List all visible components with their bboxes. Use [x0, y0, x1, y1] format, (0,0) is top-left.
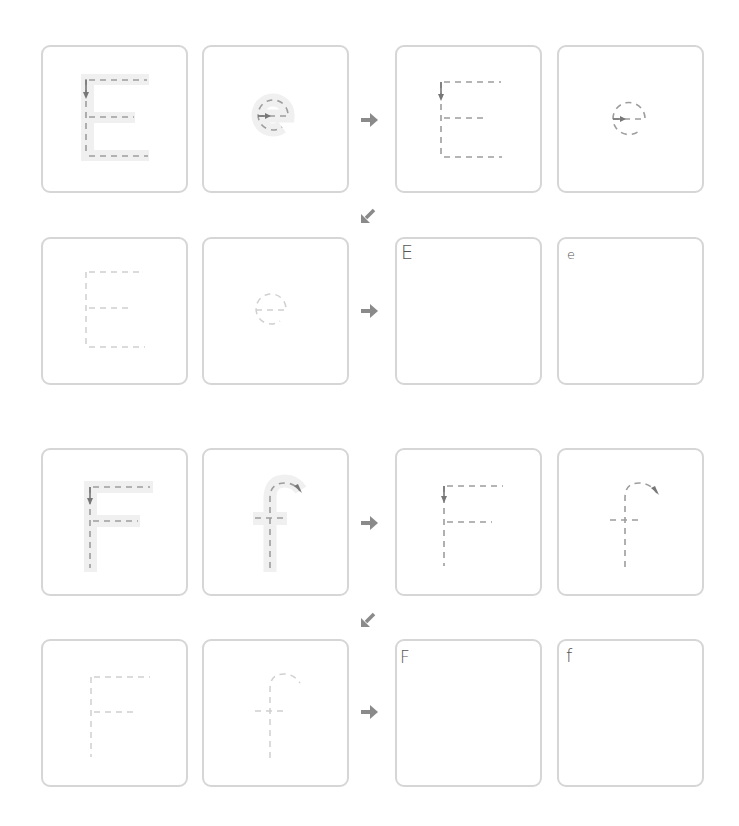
letter-f-faded-icon [202, 639, 349, 787]
card-F-faded-trace [41, 639, 188, 787]
card-F-write-box[interactable]: F [395, 639, 542, 787]
card-E-dashed-trace [395, 45, 542, 193]
card-f-write-box[interactable]: f [557, 639, 704, 787]
letter-e-faded-icon [202, 237, 349, 385]
letter-F-guide-icon [41, 448, 188, 596]
letter-label-f: f [566, 647, 572, 665]
card-E-write-box[interactable]: E [395, 237, 542, 385]
letter-label-e: e [567, 248, 575, 261]
arrow-down-left-icon [360, 208, 376, 224]
card-E-faded-trace [41, 237, 188, 385]
letter-F-dashed-icon [395, 448, 542, 596]
letter-f-dashed-icon [557, 448, 704, 596]
letter-label-E: E [401, 243, 413, 262]
card-e-dashed-trace [557, 45, 704, 193]
arrow-right-icon [360, 112, 380, 128]
letter-F-faded-icon [41, 639, 188, 787]
letter-label-F: F [400, 649, 410, 666]
card-f-dashed-trace [557, 448, 704, 596]
letter-f-guide-icon [202, 448, 349, 596]
arrow-down-left-icon [360, 612, 376, 628]
letter-E-guide-icon [41, 45, 188, 193]
card-e-write-box[interactable]: e [557, 237, 704, 385]
letter-E-faded-icon [41, 237, 188, 385]
card-f-faded-trace [202, 639, 349, 787]
card-f-guided-trace [202, 448, 349, 596]
letter-e-dashed-icon [557, 45, 704, 193]
arrow-right-icon [360, 704, 380, 720]
card-e-guided-trace [202, 45, 349, 193]
card-F-dashed-trace [395, 448, 542, 596]
card-e-faded-trace [202, 237, 349, 385]
card-E-guided-trace [41, 45, 188, 193]
letter-E-dashed-icon [395, 45, 542, 193]
arrow-right-icon [360, 515, 380, 531]
arrow-right-icon [360, 303, 380, 319]
letter-e-guide-icon [202, 45, 349, 193]
card-F-guided-trace [41, 448, 188, 596]
